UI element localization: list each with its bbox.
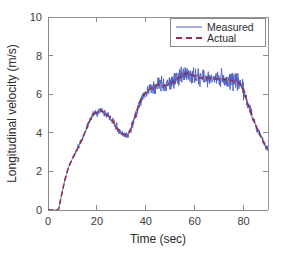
y-tick-labels: 0 2 4 6 8 10 (30, 11, 42, 216)
x-tick-label: 80 (237, 215, 249, 227)
x-axis-title: Time (sec) (130, 232, 186, 246)
x-tick-label: 20 (91, 215, 103, 227)
y-axis-title: Longitudinal velocity (m/s) (5, 44, 19, 183)
legend-label-actual: Actual (207, 32, 236, 44)
x-tick-labels: 0 20 40 60 80 (45, 215, 250, 227)
y-tick-label: 4 (36, 127, 42, 139)
y-tick-label: 8 (36, 50, 42, 62)
chart-figure: 0 2 4 6 8 10 0 20 40 60 80 Time (sec) Lo… (0, 0, 283, 268)
chart-legend: Measured Actual (170, 19, 265, 47)
x-tick-label: 0 (45, 215, 51, 227)
x-tick-label: 40 (140, 215, 152, 227)
line-chart: 0 2 4 6 8 10 0 20 40 60 80 Time (sec) Lo… (0, 0, 283, 268)
x-tick-label: 60 (189, 215, 201, 227)
y-tick-label: 2 (36, 165, 42, 177)
y-tick-label: 10 (30, 11, 42, 23)
y-tick-label: 0 (36, 204, 42, 216)
y-tick-label: 6 (36, 88, 42, 100)
